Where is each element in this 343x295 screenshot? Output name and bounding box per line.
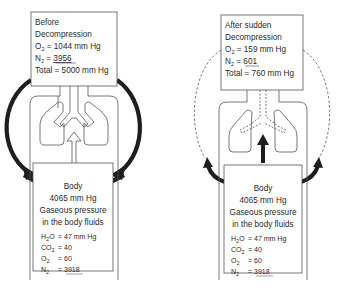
svg-text:in the body fluids: in the body fluids bbox=[232, 220, 293, 229]
svg-text:Decompression: Decompression bbox=[35, 30, 92, 39]
svg-text:in the body fluids: in the body fluids bbox=[42, 218, 103, 227]
svg-text:4065 mm Hg: 4065 mm Hg bbox=[240, 196, 287, 205]
svg-text:O2 = 159 mm Hg: O2 = 159 mm Hg bbox=[225, 45, 287, 55]
svg-text:N2 = 3956: N2 = 3956 bbox=[35, 54, 72, 64]
svg-text:Decompression: Decompression bbox=[225, 33, 282, 42]
hollow-up-arrow-icon bbox=[67, 132, 81, 163]
svg-text:After sudden: After sudden bbox=[225, 21, 272, 30]
svg-text:N2 = 601: N2 = 601 bbox=[225, 57, 257, 67]
panel-before: Before Decompression O2 = 1044 mm Hg N2 … bbox=[7, 12, 140, 280]
decompression-diagram: Before Decompression O2 = 1044 mm Hg N2 … bbox=[0, 0, 343, 295]
svg-text:Body: Body bbox=[254, 184, 274, 193]
svg-text:O2 = 1044 mm Hg: O2 = 1044 mm Hg bbox=[35, 42, 101, 52]
svg-text:Gaseous pressure: Gaseous pressure bbox=[230, 208, 297, 217]
svg-text:Total = 5000 mm Hg: Total = 5000 mm Hg bbox=[35, 66, 109, 75]
svg-text:Before: Before bbox=[35, 18, 60, 27]
svg-text:Body: Body bbox=[64, 182, 84, 191]
svg-text:Total = 760 mm Hg: Total = 760 mm Hg bbox=[225, 69, 294, 78]
panel-after: After sudden Decompression O2 = 159 mm H… bbox=[194, 15, 329, 280]
svg-text:4065 mm Hg: 4065 mm Hg bbox=[50, 194, 97, 203]
solid-up-arrow-icon bbox=[257, 134, 269, 163]
svg-text:Gaseous pressure: Gaseous pressure bbox=[40, 206, 107, 215]
